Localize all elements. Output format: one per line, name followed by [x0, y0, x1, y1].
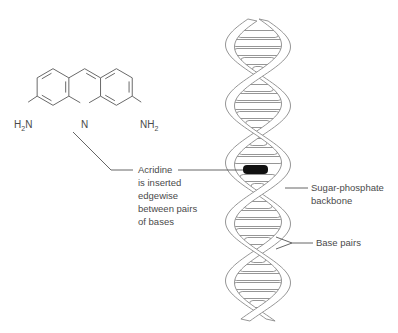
base-pair: [232, 40, 283, 47]
base-pair: [233, 274, 283, 281]
base-pair: [234, 94, 281, 101]
base-pair: [235, 229, 280, 236]
base-pair: [233, 157, 284, 164]
bond: [116, 69, 132, 78]
acridine-dna-diagram: H2N N NH2 Acridine is inserted edgewise …: [0, 0, 398, 333]
caption-line: Acridine: [138, 164, 172, 175]
amine-bond-left: [28, 96, 37, 102]
base-pair: [235, 211, 281, 218]
intercalated-acridine: [243, 165, 268, 174]
base-pair: [232, 220, 284, 227]
bond: [89, 96, 100, 103]
base-pair: [234, 49, 283, 56]
base-pairs-caption: Base pairs: [316, 237, 361, 248]
ring-nitrogen-label: N: [81, 119, 88, 130]
acridine-structure: [28, 69, 141, 106]
base-pair: [236, 112, 280, 119]
bond: [53, 96, 69, 105]
base-pair: [233, 283, 284, 290]
backbone-caption: Sugar-phosphate backbone: [311, 182, 384, 206]
caption-line: between pairs: [138, 203, 197, 214]
caption-line: of bases: [138, 216, 174, 227]
acridine-structure-leader: [73, 132, 133, 170]
caption-line: is inserted: [138, 177, 181, 188]
bond: [69, 69, 85, 78]
base-pair: [232, 103, 284, 110]
amine-right-label: NH2: [140, 119, 158, 132]
caption-line: Sugar-phosphate: [311, 182, 384, 193]
bond: [69, 96, 80, 103]
acridine-caption: Acridine is inserted edgewise between pa…: [138, 164, 197, 227]
amine-bond-right: [132, 96, 141, 102]
bond: [116, 96, 132, 105]
caption-line: backbone: [311, 195, 352, 206]
amine-left-label: H2N: [14, 119, 32, 132]
bond: [53, 69, 69, 78]
caption-line: edgewise: [138, 190, 178, 201]
